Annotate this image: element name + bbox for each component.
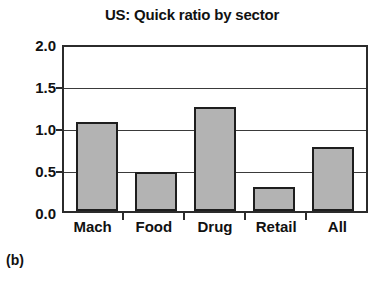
bar-mach [76, 122, 118, 211]
subfigure-label: (b) [6, 252, 24, 268]
plot-area [62, 45, 368, 213]
x-tick-label-mach: Mach [62, 218, 123, 235]
bar-retail [253, 187, 295, 211]
y-tick-label-0: 0.0 [8, 206, 56, 221]
y-tick-label-2: 1.0 [8, 122, 56, 137]
x-tick-label-food: Food [123, 218, 184, 235]
y-axis: 0.0 0.5 1.0 1.5 2.0 [8, 45, 56, 213]
x-tick-label-all: All [307, 218, 368, 235]
bar-food [135, 172, 177, 211]
y-tick-label-3: 1.5 [8, 80, 56, 95]
y-tick-label-1: 0.5 [8, 164, 56, 179]
x-tick-label-retail: Retail [246, 218, 307, 235]
chart-title: US: Quick ratio by sector [0, 6, 384, 23]
figure-panel: US: Quick ratio by sector 0.0 0.5 1.0 1.… [0, 0, 384, 298]
x-tick-label-drug: Drug [184, 218, 245, 235]
y-tick-label-4: 2.0 [8, 38, 56, 53]
bars-layer [64, 47, 366, 211]
bar-all [312, 147, 354, 211]
x-axis: Mach Food Drug Retail All [62, 218, 368, 235]
bar-drug [194, 107, 236, 211]
